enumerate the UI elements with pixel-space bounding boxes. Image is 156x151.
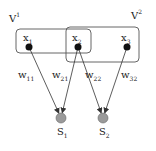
output-node-label-S2: S2 — [99, 126, 110, 139]
output-node-S1 — [56, 113, 66, 123]
weight-label-w21: w21 — [52, 69, 68, 82]
group-label-v2: V2 — [130, 8, 142, 21]
output-node-label-S1: S1 — [57, 126, 68, 139]
diagram-canvas: V1V2w11w21w22w32x1x2x3S1S2 — [0, 0, 156, 151]
input-node-label-x2: x2 — [72, 32, 82, 45]
weight-label-w32: w32 — [121, 69, 137, 82]
input-node-label-x3: x3 — [121, 32, 131, 45]
network-diagram: V1V2w11w21w22w32x1x2x3S1S2 — [0, 0, 156, 151]
weight-label-w22: w22 — [85, 69, 101, 82]
group-label-v1: V1 — [8, 11, 20, 24]
input-node-label-x1: x1 — [23, 32, 32, 45]
output-node-S2 — [98, 113, 108, 123]
weight-label-w11: w11 — [18, 69, 34, 82]
